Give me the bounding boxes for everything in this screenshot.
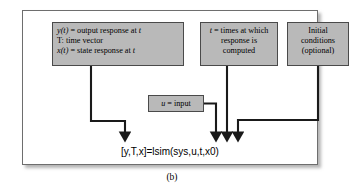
state-response-line: x(t) = state response at t	[57, 46, 179, 56]
times-line-3: computed	[205, 46, 273, 56]
input-label: u = input	[161, 99, 191, 109]
state-response-time-symbol: t	[133, 46, 135, 55]
output-response-symbol: y(t)	[57, 26, 68, 35]
figure-caption: (b)	[0, 172, 344, 182]
initial-conditions-box: Initial conditions (optional)	[287, 22, 349, 66]
initial-conditions-line-3: (optional)	[292, 46, 344, 56]
initial-conditions-line-1: Initial	[292, 26, 344, 36]
times-box: t = times at which response is computed	[200, 22, 278, 66]
state-response-text: = state response at	[68, 46, 132, 55]
function-call-label: [y,T,x]=lsim(sys,u,t,x0)	[22, 146, 318, 157]
state-response-symbol: x(t)	[57, 46, 68, 55]
output-response-line: y(t) = output response at t	[57, 26, 179, 36]
output-response-text: = output response at	[68, 26, 138, 35]
initial-conditions-line-2: conditions	[292, 36, 344, 46]
input-box: u = input	[148, 95, 204, 112]
time-vector-line: T: time vector	[57, 36, 179, 46]
output-response-time-symbol: t	[139, 26, 141, 35]
times-line-1: t = times at which	[205, 26, 273, 36]
output-and-state-response-box: y(t) = output response at t T: time vect…	[52, 22, 184, 66]
times-line-2: response is	[205, 36, 273, 46]
times-text: = times at which	[212, 26, 268, 35]
input-text: = input	[165, 99, 191, 108]
